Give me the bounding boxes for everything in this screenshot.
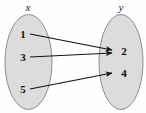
set-y-element-4: 4 (118, 68, 130, 79)
set-x-element-1: 1 (17, 29, 29, 40)
set-y-element-2: 2 (118, 46, 130, 57)
set-y-label: y (111, 2, 131, 13)
set-x-element-5: 5 (17, 84, 29, 95)
set-x-element-3: 3 (17, 52, 29, 63)
set-x-label: x (18, 2, 38, 13)
set-y-ellipse (99, 15, 143, 110)
mapping-diagram: x y 1 3 5 2 4 (0, 0, 146, 113)
